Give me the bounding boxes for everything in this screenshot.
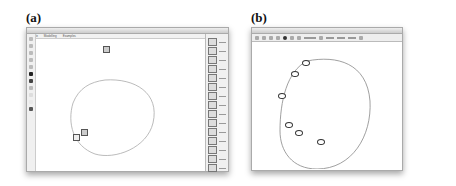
toolbar-button[interactable] (262, 36, 266, 40)
color-dark-swatch[interactable] (29, 79, 33, 83)
select-tool-icon[interactable] (29, 37, 33, 41)
vehicle-marker[interactable] (317, 139, 325, 145)
palette-item[interactable] (208, 56, 226, 64)
window-b (251, 27, 403, 171)
zoom-field[interactable] (304, 37, 316, 39)
pencil-tool-icon[interactable] (29, 44, 33, 48)
palette-item[interactable] (208, 47, 226, 55)
component-palette (205, 34, 228, 171)
toolbar-label (337, 37, 345, 39)
toolbar-button[interactable] (255, 36, 259, 40)
panel-b-label: (b) (251, 10, 267, 26)
line-tool-icon[interactable] (29, 58, 33, 62)
canvas-node[interactable] (73, 134, 80, 141)
vehicle-marker[interactable] (285, 122, 293, 128)
palette-item[interactable] (208, 38, 226, 46)
palette-item[interactable] (208, 164, 226, 172)
color-lighter-swatch[interactable] (29, 100, 33, 104)
canvas-a-loop[interactable] (35, 38, 205, 168)
palette-item[interactable] (208, 155, 226, 163)
palette-item[interactable] (208, 110, 226, 118)
canvas-b-loop[interactable] (252, 41, 402, 169)
palette-item[interactable] (208, 128, 226, 136)
zoom-tool-icon[interactable] (29, 65, 33, 69)
color-light-swatch[interactable] (29, 93, 33, 97)
toolbar-label (326, 37, 334, 39)
eraser-tool-icon[interactable] (29, 51, 33, 55)
record-button[interactable] (283, 36, 287, 40)
palette-item[interactable] (208, 119, 226, 127)
palette-item[interactable] (208, 92, 226, 100)
palette-item[interactable] (208, 137, 226, 145)
toolbar-button[interactable] (276, 36, 280, 40)
vehicle-marker[interactable] (302, 60, 310, 66)
canvas-node[interactable] (81, 129, 88, 136)
palette-item[interactable] (208, 146, 226, 154)
toolbar-button[interactable] (359, 36, 363, 40)
window-a: File Modelling Examples (26, 27, 229, 172)
toolbar-button[interactable] (269, 36, 273, 40)
toolbar-button[interactable] (290, 36, 294, 40)
panel-a-label: (a) (26, 10, 41, 26)
palette-item[interactable] (208, 65, 226, 73)
vehicle-marker[interactable] (278, 93, 286, 99)
palette-item[interactable] (208, 101, 226, 109)
color-swatch-dark2[interactable] (29, 107, 33, 111)
palette-item[interactable] (208, 83, 226, 91)
palette-item[interactable] (208, 74, 226, 82)
toolbar-button[interactable] (297, 36, 301, 40)
color-gray-swatch[interactable] (29, 86, 33, 90)
color-black-swatch[interactable] (29, 72, 33, 76)
canvas-node[interactable] (103, 46, 110, 53)
toolbar-label (348, 37, 356, 39)
toolbar-button[interactable] (319, 36, 323, 40)
vehicle-marker[interactable] (295, 130, 303, 136)
vehicle-marker[interactable] (291, 71, 299, 77)
